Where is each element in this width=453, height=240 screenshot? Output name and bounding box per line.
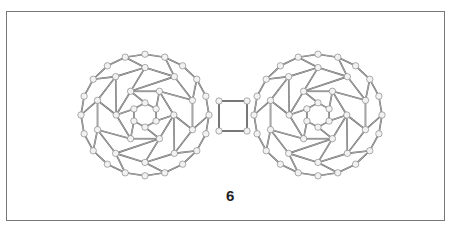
left-c60-cage: [78, 51, 212, 179]
right-c60-cage: [251, 51, 385, 179]
compound-label: 6: [226, 187, 234, 204]
cyclobutane-bridge: [219, 101, 247, 131]
